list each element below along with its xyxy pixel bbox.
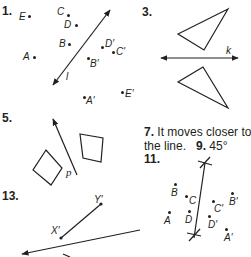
line-label-k: k bbox=[226, 45, 231, 56]
point-dot bbox=[101, 46, 104, 49]
point-label: B bbox=[171, 187, 178, 198]
segment-xy-image bbox=[61, 204, 101, 238]
point-dot bbox=[28, 15, 31, 18]
point-x-prime bbox=[59, 236, 62, 239]
point-label: B bbox=[59, 38, 66, 49]
point-dot bbox=[174, 183, 177, 186]
point-label: D bbox=[185, 214, 192, 225]
point-dot bbox=[188, 210, 191, 213]
point-dot bbox=[208, 215, 211, 218]
point-label: B′ bbox=[229, 196, 238, 207]
point-label: A bbox=[164, 215, 171, 226]
point-label: A bbox=[23, 51, 30, 62]
quadrilateral-left bbox=[33, 150, 62, 185]
point-label: D bbox=[64, 19, 71, 30]
point-label: C′ bbox=[214, 203, 223, 214]
point-dot bbox=[185, 195, 188, 198]
point-label: B′ bbox=[90, 58, 99, 69]
point-label: C bbox=[189, 195, 196, 206]
label-x-prime: X′ bbox=[51, 225, 60, 236]
point-label: C bbox=[57, 6, 64, 17]
point-label: D′ bbox=[208, 219, 217, 230]
point-dot bbox=[33, 56, 36, 59]
point-label: A′ bbox=[224, 232, 233, 243]
line-label-l: l bbox=[66, 71, 68, 82]
point-dot bbox=[75, 24, 78, 27]
point-dot bbox=[225, 228, 228, 231]
point-dot bbox=[121, 91, 124, 94]
point-label: D′ bbox=[105, 38, 114, 49]
point-dot bbox=[168, 211, 171, 214]
point-label: A′ bbox=[86, 95, 95, 106]
triangle-original bbox=[178, 9, 228, 50]
point-label: C′ bbox=[116, 46, 125, 57]
triangle-image bbox=[178, 67, 228, 108]
point-dot bbox=[67, 14, 70, 17]
reflection-line-p bbox=[53, 119, 77, 175]
point-dot bbox=[112, 51, 115, 54]
point-dot bbox=[231, 192, 234, 195]
label-y-prime: Y′ bbox=[94, 194, 103, 205]
arc-mark-bottom bbox=[187, 229, 201, 241]
point-label: E′ bbox=[125, 88, 134, 99]
quadrilateral-right bbox=[80, 134, 103, 162]
point-dot bbox=[68, 43, 71, 46]
reflection-line-13 bbox=[22, 230, 140, 254]
line-label-p: p bbox=[66, 166, 72, 178]
point-label: E bbox=[19, 11, 26, 22]
